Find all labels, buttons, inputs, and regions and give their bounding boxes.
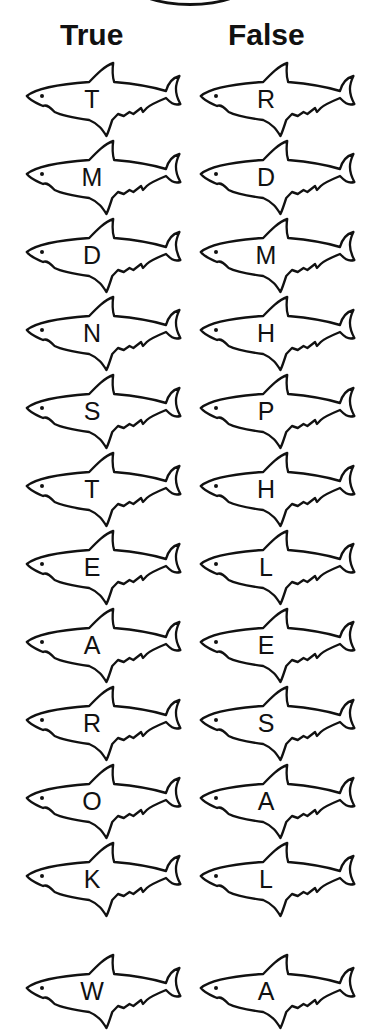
shark-letter: H — [246, 474, 286, 504]
shark-card-true: S — [22, 370, 184, 452]
shark-letter: R — [246, 84, 286, 114]
shark-letter: T — [72, 84, 112, 114]
shark-letter: D — [72, 240, 112, 270]
shark-letter: K — [72, 864, 112, 894]
shark-letter: M — [72, 162, 112, 192]
shark-card-false: D — [196, 136, 358, 218]
shark-letter: A — [72, 630, 112, 660]
shark-card-true: D — [22, 214, 184, 296]
shark-card-false: S — [196, 682, 358, 764]
shark-letter: A — [246, 976, 286, 1006]
shark-letter: T — [72, 474, 112, 504]
shark-letter: L — [246, 864, 286, 894]
shark-card-true: M — [22, 136, 184, 218]
shark-letter: E — [246, 630, 286, 660]
shark-card-false: M — [196, 214, 358, 296]
shark-card-true: N — [22, 292, 184, 374]
false-column-header: False — [228, 18, 305, 52]
shark-card-false: E — [196, 604, 358, 686]
shark-card-false: L — [196, 838, 358, 920]
shark-letter: H — [246, 318, 286, 348]
shark-card-true: O — [22, 760, 184, 842]
shark-letter: S — [72, 396, 112, 426]
shark-card-true: T — [22, 448, 184, 530]
true-column-header: True — [60, 18, 123, 52]
shark-letter: S — [246, 708, 286, 738]
shark-letter: O — [72, 786, 112, 816]
shark-card-false: R — [196, 58, 358, 140]
shark-letter: A — [246, 786, 286, 816]
shark-letter: P — [246, 396, 286, 426]
shark-card-false: A — [196, 760, 358, 842]
shark-card-false: P — [196, 370, 358, 452]
shark-card-true: K — [22, 838, 184, 920]
shark-letter: E — [72, 552, 112, 582]
shark-card-true: R — [22, 682, 184, 764]
shark-card-true: T — [22, 58, 184, 140]
shark-card-true: E — [22, 526, 184, 608]
title-oval-arc — [130, 0, 250, 6]
shark-letter: N — [72, 318, 112, 348]
shark-card-false: H — [196, 448, 358, 530]
shark-letter: L — [246, 552, 286, 582]
shark-letter: W — [72, 976, 112, 1006]
shark-letter: M — [246, 240, 286, 270]
shark-card-true: A — [22, 604, 184, 686]
shark-card-false: H — [196, 292, 358, 374]
shark-card-true: W — [22, 950, 184, 1032]
shark-card-false: L — [196, 526, 358, 608]
shark-letter: D — [246, 162, 286, 192]
shark-letter: R — [72, 708, 112, 738]
shark-card-false: A — [196, 950, 358, 1032]
